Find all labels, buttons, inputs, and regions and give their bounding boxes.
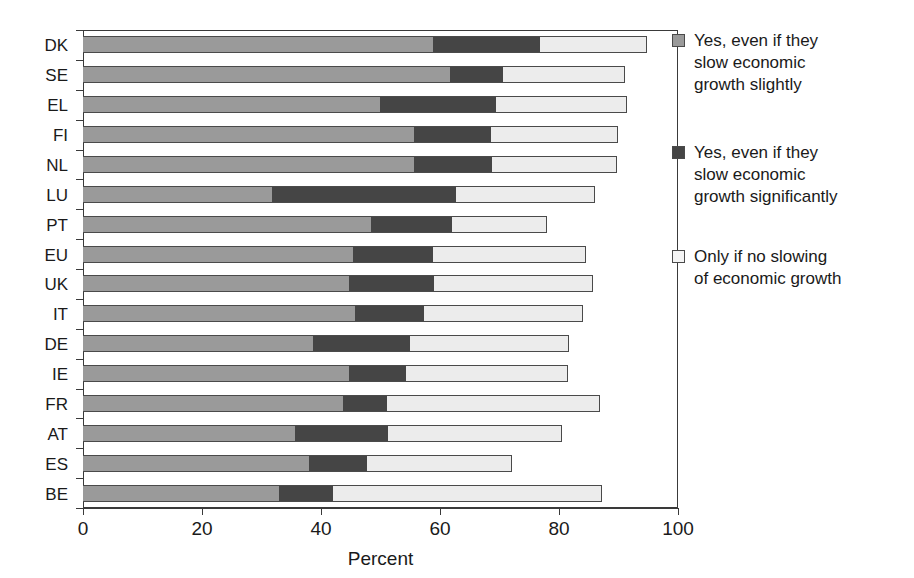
bar-segment-it-s3[interactable] xyxy=(424,305,583,322)
bar-segment-it-s1[interactable] xyxy=(83,305,355,322)
bar-segment-be-s1[interactable] xyxy=(83,485,279,502)
y-axis-tick xyxy=(76,60,83,61)
legend-entry-1[interactable]: Yes, even if they slow economic growth s… xyxy=(672,30,818,96)
bar-ie[interactable] xyxy=(83,365,678,382)
y-axis-tick xyxy=(76,478,83,479)
legend-entry-2[interactable]: Yes, even if they slow economic growth s… xyxy=(672,142,838,208)
bar-segment-fr-s3[interactable] xyxy=(387,395,600,412)
bar-segment-fi-s1[interactable] xyxy=(83,126,414,143)
bar-segment-be-s3[interactable] xyxy=(333,485,602,502)
y-axis-tick xyxy=(76,209,83,210)
bar-es[interactable] xyxy=(83,455,678,472)
x-axis-tick-60 xyxy=(440,508,441,515)
bar-fi[interactable] xyxy=(83,126,678,143)
x-axis-tick-label-60: 60 xyxy=(410,518,470,540)
bar-at[interactable] xyxy=(83,425,678,442)
bar-segment-nl-s3[interactable] xyxy=(492,156,617,173)
category-label-se: SE xyxy=(45,67,68,84)
legend-label-2: Yes, even if they slow economic growth s… xyxy=(694,142,838,208)
x-axis-tick-label-80: 80 xyxy=(529,518,589,540)
category-label-lu: LU xyxy=(46,187,68,204)
x-axis-title: Percent xyxy=(83,548,678,570)
bar-segment-es-s2[interactable] xyxy=(309,455,367,472)
bar-segment-ie-s2[interactable] xyxy=(349,365,406,382)
bar-segment-at-s2[interactable] xyxy=(295,425,388,442)
x-axis-tick-20 xyxy=(202,508,203,515)
x-axis-tick-100 xyxy=(678,508,679,515)
bar-be[interactable] xyxy=(83,485,678,502)
bar-segment-fr-s2[interactable] xyxy=(343,395,387,412)
bar-segment-nl-s1[interactable] xyxy=(83,156,414,173)
y-axis-tick xyxy=(76,418,83,419)
category-label-be: BE xyxy=(45,486,68,503)
bar-segment-lu-s1[interactable] xyxy=(83,186,272,203)
bar-segment-fi-s3[interactable] xyxy=(491,126,618,143)
category-label-de: DE xyxy=(44,336,68,353)
bar-lu[interactable] xyxy=(83,186,678,203)
category-label-pt: PT xyxy=(46,217,68,234)
bar-segment-pt-s1[interactable] xyxy=(83,216,371,233)
bar-nl[interactable] xyxy=(83,156,678,173)
bar-segment-de-s1[interactable] xyxy=(83,335,313,352)
category-axis: DKSEELFINLLUPTEUUKITDEIEFRATESBE xyxy=(0,30,80,508)
bar-segment-it-s2[interactable] xyxy=(355,305,424,322)
bar-segment-lu-s3[interactable] xyxy=(456,186,595,203)
category-label-it: IT xyxy=(53,306,68,323)
bar-segment-dk-s2[interactable] xyxy=(433,36,540,53)
bar-segment-es-s3[interactable] xyxy=(367,455,512,472)
bar-segment-pt-s3[interactable] xyxy=(452,216,547,233)
legend-swatch-icon-1 xyxy=(672,34,685,47)
x-axis-tick-label-0: 0 xyxy=(53,518,113,540)
bar-segment-fr-s1[interactable] xyxy=(83,395,343,412)
bar-segment-de-s3[interactable] xyxy=(410,335,569,352)
bar-segment-be-s2[interactable] xyxy=(279,485,333,502)
bar-segment-uk-s3[interactable] xyxy=(434,275,593,292)
bar-segment-ie-s3[interactable] xyxy=(406,365,568,382)
x-axis-tick-label-40: 40 xyxy=(291,518,351,540)
x-axis-tick-label-20: 20 xyxy=(172,518,232,540)
category-label-ie: IE xyxy=(52,366,68,383)
bar-segment-se-s3[interactable] xyxy=(503,66,625,83)
bar-it[interactable] xyxy=(83,305,678,322)
legend-swatch-icon-2 xyxy=(672,146,685,159)
bar-segment-dk-s3[interactable] xyxy=(540,36,647,53)
bar-segment-nl-s2[interactable] xyxy=(414,156,492,173)
y-axis-tick xyxy=(76,299,83,300)
bar-segment-el-s3[interactable] xyxy=(496,96,627,113)
category-label-dk: DK xyxy=(44,37,68,54)
bar-segment-at-s1[interactable] xyxy=(83,425,295,442)
bar-pt[interactable] xyxy=(83,216,678,233)
bar-fr[interactable] xyxy=(83,395,678,412)
bar-segment-se-s1[interactable] xyxy=(83,66,450,83)
bar-segment-eu-s1[interactable] xyxy=(83,246,353,263)
bar-se[interactable] xyxy=(83,66,678,83)
y-axis-tick xyxy=(76,120,83,121)
category-label-fr: FR xyxy=(45,396,68,413)
bar-segment-fi-s2[interactable] xyxy=(414,126,491,143)
bar-dk[interactable] xyxy=(83,36,678,53)
bar-segment-el-s1[interactable] xyxy=(83,96,380,113)
bar-segment-se-s2[interactable] xyxy=(450,66,503,83)
bar-uk[interactable] xyxy=(83,275,678,292)
x-axis-tick-label-100: 100 xyxy=(648,518,708,540)
bars-layer xyxy=(83,30,678,508)
legend-entry-3[interactable]: Only if no slowing of economic growth xyxy=(672,246,841,290)
bar-segment-el-s2[interactable] xyxy=(380,96,496,113)
stacked-bar-chart-figure: DKSEELFINLLUPTEUUKITDEIEFRATESBE 0204060… xyxy=(0,0,914,578)
bar-segment-es-s1[interactable] xyxy=(83,455,309,472)
bar-segment-at-s3[interactable] xyxy=(388,425,562,442)
bar-segment-lu-s2[interactable] xyxy=(272,186,456,203)
bar-de[interactable] xyxy=(83,335,678,352)
bar-segment-eu-s3[interactable] xyxy=(433,246,586,263)
bar-el[interactable] xyxy=(83,96,678,113)
bar-segment-uk-s1[interactable] xyxy=(83,275,349,292)
bar-eu[interactable] xyxy=(83,246,678,263)
bar-segment-pt-s2[interactable] xyxy=(371,216,452,233)
bar-segment-ie-s1[interactable] xyxy=(83,365,349,382)
y-axis-tick xyxy=(76,508,83,509)
bar-segment-uk-s2[interactable] xyxy=(349,275,434,292)
bar-segment-dk-s1[interactable] xyxy=(83,36,433,53)
bar-segment-de-s2[interactable] xyxy=(313,335,410,352)
bar-segment-eu-s2[interactable] xyxy=(353,246,433,263)
y-axis-tick xyxy=(76,239,83,240)
